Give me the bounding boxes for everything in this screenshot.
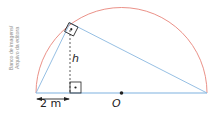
right-angle-marker-foot (70, 82, 81, 93)
geometry-figure: Banco de imagens/ Arquivo da editora h O… (0, 0, 220, 117)
distance-label: 2 m (40, 97, 61, 110)
center-point-o (120, 91, 124, 95)
triangle-left-leg (36, 23, 70, 93)
semicircle-triangle-diagram (0, 0, 220, 117)
credit-line-2: Arquivo da editora (14, 18, 20, 78)
height-label: h (72, 52, 79, 65)
image-credit: Banco de imagens/ Arquivo da editora (8, 18, 20, 78)
triangle-right-leg (70, 23, 207, 93)
center-label: O (112, 97, 121, 110)
